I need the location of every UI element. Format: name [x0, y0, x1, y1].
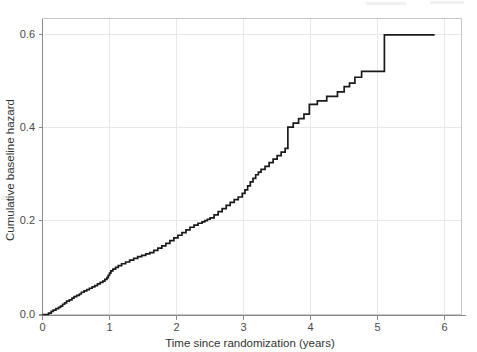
x-tick-label: 1 — [106, 321, 112, 333]
y-axis — [39, 19, 43, 320]
x-tick-label: 6 — [441, 321, 447, 333]
plot-panel — [43, 19, 462, 315]
y-tick-label: 0.2 — [20, 214, 35, 226]
y-axis-title: Cumulative baseline hazard — [4, 99, 16, 241]
x-tick-labels: 0 1 2 3 4 5 6 — [39, 321, 447, 333]
figure-container: 0.0 0.2 0.4 0.6 0 1 2 3 4 5 6 Time since… — [0, 0, 477, 352]
x-tick-label: 5 — [374, 321, 380, 333]
y-tick-labels: 0.0 0.2 0.4 0.6 — [20, 28, 35, 320]
x-tick-label: 0 — [39, 321, 45, 333]
x-axis-title: Time since randomization (years) — [165, 337, 335, 349]
y-tick-label: 0.4 — [20, 121, 35, 133]
cumulative-baseline-hazard-chart: 0.0 0.2 0.4 0.6 0 1 2 3 4 5 6 Time since… — [0, 0, 477, 352]
x-tick-label: 2 — [173, 321, 179, 333]
y-tick-label: 0.0 — [20, 308, 35, 320]
x-tick-label: 3 — [240, 321, 246, 333]
y-tick-label: 0.6 — [20, 28, 35, 40]
x-axis — [39, 316, 466, 320]
x-tick-label: 4 — [307, 321, 313, 333]
